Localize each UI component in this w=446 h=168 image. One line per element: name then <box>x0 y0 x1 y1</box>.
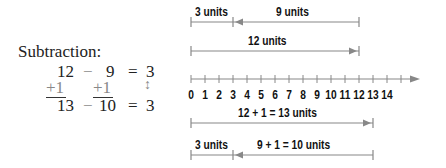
tick-label: 13 <box>367 88 378 102</box>
tick-label: 7 <box>286 88 292 102</box>
tick-label: 10 <box>325 88 336 102</box>
tick-label: 6 <box>272 88 278 102</box>
tick-label: 3 <box>230 88 236 102</box>
tick-label: 14 <box>381 88 392 102</box>
label-3-units-bottom: 3 units <box>195 138 228 152</box>
tick-label: 8 <box>300 88 306 102</box>
tick-label: 9 <box>314 88 320 102</box>
tick-label: 0 <box>188 88 194 102</box>
tick-label: 5 <box>258 88 264 102</box>
tick-label: 11 <box>340 88 351 102</box>
label-12-units: 12 units <box>248 34 287 48</box>
tick-label: 2 <box>216 88 222 102</box>
tick-label: 12 <box>353 88 364 102</box>
label-9-units: 9 units <box>276 5 309 19</box>
tick-label: 4 <box>244 88 250 102</box>
label-10-units: 9 + 1 = 10 units <box>257 138 330 152</box>
label-3-units-top: 3 units <box>195 5 228 19</box>
label-13-units: 12 + 1 = 13 units <box>238 106 317 120</box>
tick-label: 1 <box>202 88 208 102</box>
